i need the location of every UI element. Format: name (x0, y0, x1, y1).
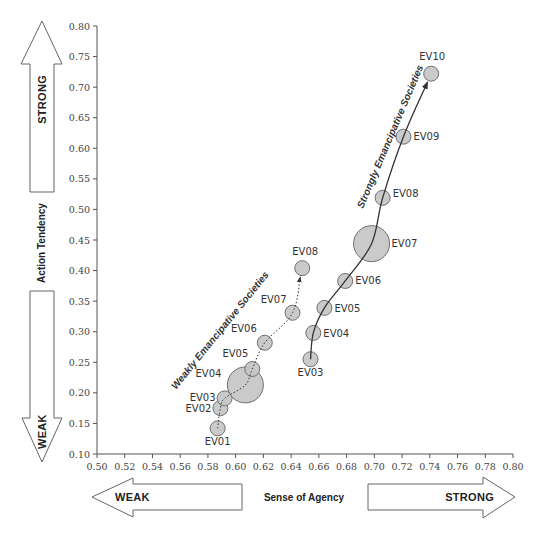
x-tick-label: 0.56 (170, 461, 191, 472)
x-tick-label: 0.68 (336, 461, 357, 472)
y-tick-label: 0.45 (69, 235, 90, 246)
y-tick-label: 0.55 (69, 173, 90, 184)
x-tick-label: 0.72 (391, 461, 412, 472)
chart-figure: STRONG Action Tendency WEAK 0.500.520.54… (0, 0, 548, 533)
data-point-label: EV08 (393, 188, 419, 199)
data-point-label: EV03 (190, 392, 216, 403)
x-tick-label: 0.74 (419, 461, 440, 472)
x-tick-label: 0.52 (114, 461, 135, 472)
data-point-label: EV05 (334, 303, 360, 314)
data-point (295, 261, 310, 276)
y-tick-label: 0.20 (69, 387, 90, 398)
data-point-label: EV08 (292, 246, 318, 257)
x-tick-label: 0.80 (502, 461, 523, 472)
y-tick-label: 0.65 (69, 112, 90, 123)
x-arrow-strong: STRONG (368, 477, 515, 518)
y-arrow-weak-label: WEAK (36, 414, 48, 449)
data-point-label: EV10 (419, 51, 445, 62)
y-arrow-strong: STRONG (21, 21, 62, 192)
data-point-label: EV03 (298, 367, 324, 378)
x-tick-label: 0.76 (447, 461, 468, 472)
data-point-label: EV07 (261, 294, 287, 305)
y-tick-label: 0.10 (69, 449, 90, 460)
data-point-label: EV09 (413, 131, 439, 142)
x-axis-title: Sense of Agency (264, 492, 345, 503)
y-tick-label: 0.50 (69, 204, 90, 215)
data-point-label: EV02 (186, 403, 212, 414)
x-arrow-weak-label: WEAK (115, 491, 150, 503)
y-tick-label: 0.60 (69, 143, 90, 154)
x-arrow-weak: WEAK (92, 478, 242, 517)
y-arrow-weak: WEAK (22, 291, 62, 462)
data-point-label: EV04 (195, 368, 221, 379)
scatter-chart: STRONG Action Tendency WEAK 0.500.520.54… (0, 0, 548, 533)
x-tick-label: 0.60 (225, 461, 246, 472)
x-tick-label: 0.58 (197, 461, 218, 472)
x-tick-label: 0.78 (475, 461, 496, 472)
y-tick-label: 0.35 (69, 296, 90, 307)
data-point-label: EV05 (222, 348, 248, 359)
data-point-label: EV06 (231, 323, 257, 334)
data-point (424, 66, 439, 81)
y-tick-label: 0.25 (69, 357, 90, 368)
y-axis-title: Action Tendency (36, 203, 47, 283)
y-tick-label: 0.30 (69, 326, 90, 337)
x-arrow-strong-label: STRONG (445, 491, 494, 503)
x-tick-label: 0.70 (364, 461, 385, 472)
y-tick-label: 0.15 (69, 418, 90, 429)
y-tick-label: 0.75 (69, 51, 90, 62)
data-point-label: EV06 (355, 275, 381, 286)
strong-series-trend-line (311, 82, 428, 359)
data-point-label: EV01 (205, 436, 231, 447)
y-arrow-strong-label: STRONG (36, 75, 48, 124)
x-tick-label: 0.66 (308, 461, 329, 472)
y-tick-label: 0.70 (69, 82, 90, 93)
x-tick-label: 0.64 (281, 461, 302, 472)
x-tick-label: 0.62 (253, 461, 274, 472)
y-tick-label: 0.40 (69, 265, 90, 276)
y-tick-label: 0.80 (69, 21, 90, 32)
data-point-label: EV04 (323, 328, 349, 339)
x-tick-label: 0.54 (142, 461, 163, 472)
data-point-label: EV07 (392, 238, 418, 249)
x-tick-label: 0.50 (86, 461, 107, 472)
